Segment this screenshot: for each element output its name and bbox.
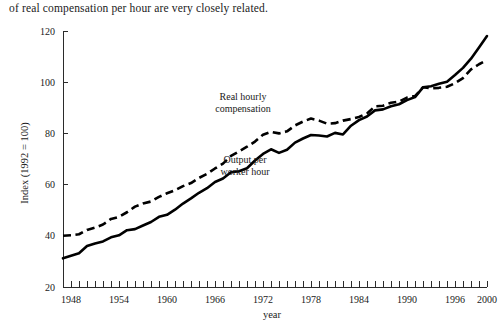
line-chart: 20406080100120 1948195419601966197219781… xyxy=(0,0,502,324)
y-axis-title: Index (1992 = 100) xyxy=(19,122,31,204)
series-line-output-per-worker-hour xyxy=(63,36,487,258)
series-annotation-real-hourly-compensation-line1: Real hourly xyxy=(220,91,267,102)
y-tick-label-40: 40 xyxy=(45,230,55,241)
y-tick-label-80: 80 xyxy=(45,128,55,139)
x-tick-label-1996: 1996 xyxy=(445,294,465,305)
x-tick-label-1972: 1972 xyxy=(253,294,273,305)
y-tick-label-20: 20 xyxy=(45,282,55,293)
chart-axes xyxy=(63,31,487,287)
x-tick-label-1960: 1960 xyxy=(157,294,177,305)
x-axis-title: year xyxy=(263,309,282,320)
x-tick-label-1948: 1948 xyxy=(61,294,81,305)
y-axis-tick-labels: 20406080100120 xyxy=(40,26,55,293)
x-tick-label-1966: 1966 xyxy=(205,294,225,305)
y-tick-label-100: 100 xyxy=(40,77,55,88)
x-tick-label-2000: 2000 xyxy=(477,294,497,305)
x-tick-label-1984: 1984 xyxy=(349,294,369,305)
y-tick-label-120: 120 xyxy=(40,26,55,37)
series-annotation-real-hourly-compensation-line2: compensation xyxy=(215,103,271,114)
x-tick-label-1978: 1978 xyxy=(301,294,321,305)
series-annotation-output-per-worker-hour-line1: Output per xyxy=(223,154,267,165)
chart-figure: 20406080100120 1948195419601966197219781… xyxy=(0,0,502,324)
y-tick-label-60: 60 xyxy=(45,179,55,190)
x-axis-tick-labels: 1948195419601966197219781984199019962000 xyxy=(61,294,497,305)
x-tick-label-1954: 1954 xyxy=(109,294,129,305)
series-annotation-output-per-worker-hour-line2: worker hour xyxy=(220,166,270,177)
chart-tick-marks xyxy=(63,31,487,287)
x-tick-label-1990: 1990 xyxy=(397,294,417,305)
chart-series xyxy=(63,36,487,258)
